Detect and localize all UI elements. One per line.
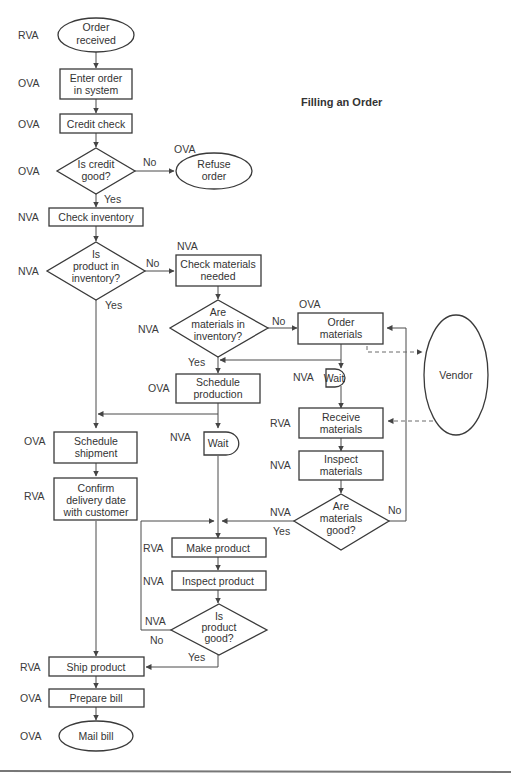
va-label: OVA bbox=[299, 298, 320, 310]
svg-text:production: production bbox=[193, 388, 242, 400]
va-label: OVA bbox=[20, 730, 41, 742]
va-label: OVA bbox=[24, 435, 45, 447]
edge-label-yes: Yes bbox=[105, 299, 122, 311]
svg-text:received: received bbox=[76, 34, 116, 46]
svg-text:Confirm: Confirm bbox=[78, 482, 115, 494]
node-wait-2: Wait bbox=[204, 432, 239, 455]
flowchart-canvas: Filling an Order bbox=[0, 0, 511, 781]
svg-text:good?: good? bbox=[326, 524, 355, 536]
va-label: RVA bbox=[143, 542, 164, 554]
node-confirm-delivery: Confirm delivery date with customer bbox=[54, 478, 137, 520]
node-refuse-order: Refuse order bbox=[176, 153, 252, 189]
svg-text:materials: materials bbox=[320, 465, 363, 477]
svg-text:Refuse: Refuse bbox=[197, 158, 230, 170]
svg-text:good?: good? bbox=[81, 170, 110, 182]
svg-text:Order: Order bbox=[328, 316, 355, 328]
svg-text:materials: materials bbox=[320, 512, 363, 524]
svg-text:Enter order: Enter order bbox=[70, 72, 123, 84]
edge-label-yes: Yes bbox=[188, 651, 205, 663]
va-label: NVA bbox=[18, 265, 39, 277]
svg-text:Prepare bill: Prepare bill bbox=[69, 692, 122, 704]
edge-label-yes: Yes bbox=[273, 525, 290, 537]
va-label: NVA bbox=[170, 431, 191, 443]
bottom-divider bbox=[0, 771, 511, 772]
node-inspect-product: Inspect product bbox=[172, 571, 266, 590]
edge-label-no: No bbox=[388, 504, 402, 516]
svg-text:Are: Are bbox=[210, 306, 227, 318]
svg-text:Vendor: Vendor bbox=[439, 369, 473, 381]
va-label: NVA bbox=[177, 240, 198, 252]
va-label: RVA bbox=[18, 29, 39, 41]
svg-text:order: order bbox=[202, 170, 227, 182]
svg-text:Wait: Wait bbox=[324, 372, 345, 384]
svg-text:Schedule: Schedule bbox=[196, 376, 240, 388]
svg-text:Is: Is bbox=[92, 248, 100, 260]
svg-text:materials in: materials in bbox=[191, 318, 245, 330]
node-is-product-good: Is product good? bbox=[171, 604, 267, 655]
node-are-materials-in-inventory: Are materials in inventory? bbox=[170, 300, 268, 357]
node-wait-1: Wait bbox=[324, 369, 345, 387]
va-label: NVA bbox=[270, 506, 291, 518]
diagram-title: Filling an Order bbox=[301, 96, 383, 108]
svg-text:materials: materials bbox=[320, 328, 363, 340]
node-schedule-production: Schedule production bbox=[176, 374, 260, 403]
svg-text:Make product: Make product bbox=[186, 542, 250, 554]
node-credit-check: Credit check bbox=[60, 114, 132, 133]
node-receive-materials: Receive materials bbox=[299, 408, 383, 438]
svg-text:Inspect: Inspect bbox=[324, 453, 358, 465]
va-label: OVA bbox=[18, 118, 39, 130]
svg-text:in system: in system bbox=[74, 84, 119, 96]
node-is-product-in-inventory: Is product in inventory? bbox=[47, 242, 145, 300]
node-ship-product: Ship product bbox=[49, 657, 144, 676]
svg-text:product in: product in bbox=[73, 260, 119, 272]
va-label: OVA bbox=[18, 77, 39, 89]
node-make-product: Make product bbox=[172, 538, 266, 557]
svg-text:good?: good? bbox=[204, 632, 233, 644]
svg-text:needed: needed bbox=[200, 270, 235, 282]
va-label: NVA bbox=[145, 615, 166, 627]
edge-label-no: No bbox=[150, 634, 164, 646]
edge-label-yes: Yes bbox=[188, 356, 205, 368]
svg-text:Ship product: Ship product bbox=[67, 661, 126, 673]
va-label: NVA bbox=[138, 323, 159, 335]
node-mail-bill: Mail bill bbox=[59, 721, 133, 751]
svg-text:with customer: with customer bbox=[63, 506, 129, 518]
svg-text:Are: Are bbox=[333, 500, 350, 512]
edge-label-yes: Yes bbox=[104, 193, 121, 205]
node-check-inventory: Check inventory bbox=[49, 208, 143, 226]
va-label: RVA bbox=[20, 661, 41, 673]
va-label: OVA bbox=[18, 165, 39, 177]
svg-text:inventory?: inventory? bbox=[72, 272, 121, 284]
va-label: OVA bbox=[174, 143, 195, 155]
node-check-materials-needed: Check materials needed bbox=[176, 255, 261, 286]
edge-label-no: No bbox=[146, 257, 160, 269]
va-label: NVA bbox=[270, 459, 291, 471]
va-label: NVA bbox=[18, 211, 39, 223]
node-schedule-shipment: Schedule shipment bbox=[54, 432, 137, 463]
va-label: NVA bbox=[293, 371, 314, 383]
edge-label-no: No bbox=[143, 156, 157, 168]
node-prepare-bill: Prepare bill bbox=[49, 689, 144, 707]
svg-text:Check inventory: Check inventory bbox=[58, 211, 134, 223]
svg-text:Is credit: Is credit bbox=[78, 158, 115, 170]
edge-label-no: No bbox=[272, 315, 286, 327]
svg-text:materials: materials bbox=[320, 423, 363, 435]
svg-text:inventory?: inventory? bbox=[194, 330, 243, 342]
svg-text:Wait: Wait bbox=[208, 437, 229, 449]
node-vendor: Vendor bbox=[424, 315, 488, 435]
node-order-materials: Order materials bbox=[298, 313, 383, 344]
svg-text:Receive: Receive bbox=[322, 411, 360, 423]
node-enter-order: Enter order in system bbox=[60, 69, 132, 99]
svg-text:Order: Order bbox=[83, 21, 110, 33]
node-order-received: Order received bbox=[58, 18, 134, 52]
va-label: OVA bbox=[148, 382, 169, 394]
va-label: RVA bbox=[24, 490, 45, 502]
va-label: RVA bbox=[270, 417, 291, 429]
svg-text:shipment: shipment bbox=[75, 447, 118, 459]
va-label: OVA bbox=[20, 692, 41, 704]
svg-text:Mail bill: Mail bill bbox=[78, 730, 113, 742]
svg-text:Schedule: Schedule bbox=[74, 435, 118, 447]
svg-text:Credit check: Credit check bbox=[67, 118, 126, 130]
node-are-materials-good: Are materials good? bbox=[294, 494, 389, 550]
va-label: NVA bbox=[143, 575, 164, 587]
